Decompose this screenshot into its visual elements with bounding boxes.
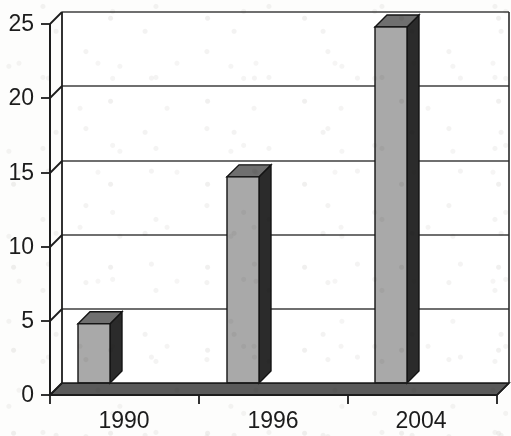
y-tick-label-10: 10: [0, 235, 34, 258]
x-tick-label-2004: 2004: [361, 409, 481, 432]
plot-floor: [50, 383, 509, 395]
y-tick-label-5: 5: [0, 309, 34, 332]
x-tick-label-1990: 1990: [64, 409, 184, 432]
bar-2004[interactable]: [375, 15, 419, 383]
y-tick-label-15: 15: [0, 161, 34, 184]
x-tick-label-1996: 1996: [213, 409, 333, 432]
y-tick-label-20: 20: [0, 86, 34, 109]
chart-plot-area: [0, 0, 511, 436]
bar-2004-side-face: [407, 15, 419, 383]
y-tick-label-0: 0: [0, 383, 34, 406]
bar-1996-front-face: [227, 177, 259, 383]
plot-back-wall: [62, 12, 509, 383]
axis-depth-connector-top: [50, 12, 62, 24]
bar-2004-front-face: [375, 27, 407, 383]
bar-1990-front-face: [78, 324, 110, 383]
y-axis-ticks: [41, 24, 62, 395]
x-axis-ticks: [50, 395, 497, 404]
y-tick-label-25: 25: [0, 12, 34, 35]
bar-chart-figure: 25 20 15 10 5 0 1990 1996 2004: [0, 0, 511, 436]
bar-1996[interactable]: [227, 165, 271, 383]
bar-1990[interactable]: [78, 312, 122, 383]
bar-1996-side-face: [259, 165, 271, 383]
